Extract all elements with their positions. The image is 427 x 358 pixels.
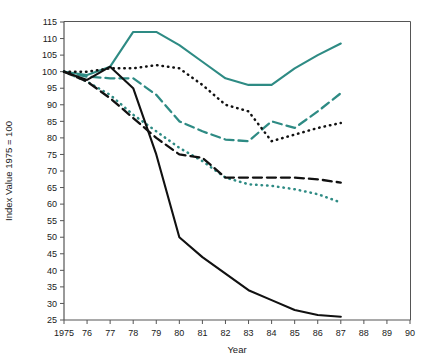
x-tick-label: 78 [128, 328, 138, 338]
x-tick-label: 84 [267, 328, 277, 338]
x-tick-label: 77 [105, 328, 115, 338]
y-tick-label: 110 [43, 34, 57, 44]
y-tick-label: 90 [47, 100, 57, 110]
y-tick-label: 80 [47, 133, 57, 143]
y-tick-label: 50 [47, 232, 57, 242]
y-axis-title: Index Value 1975 = 100 [3, 121, 14, 221]
y-tick-label: 75 [47, 150, 57, 160]
series-teal-dashed [64, 72, 341, 142]
y-tick-label: 85 [47, 117, 57, 127]
y-tick-label: 35 [47, 282, 57, 292]
y-tick-label: 40 [47, 266, 57, 276]
x-axis-title: Year [227, 344, 246, 355]
chart-container: 2530354045505560657075808590951001051101… [0, 0, 427, 358]
series-black-dotted [64, 65, 341, 141]
y-tick-label: 115 [43, 17, 57, 27]
x-tick-label: 87 [336, 328, 346, 338]
series-black-solid [64, 67, 341, 317]
y-tick-label: 70 [47, 166, 57, 176]
x-tick-label: 83 [244, 328, 254, 338]
x-tick-label: 85 [290, 328, 300, 338]
line-chart: 2530354045505560657075808590951001051101… [0, 0, 427, 358]
y-tick-label: 100 [42, 67, 57, 77]
x-tick-label: 86 [313, 328, 323, 338]
y-tick-label: 105 [42, 50, 57, 60]
y-tick-label: 55 [47, 216, 57, 226]
x-tick-label: 80 [174, 328, 184, 338]
x-tick-label: 79 [151, 328, 161, 338]
x-tick-label: 76 [82, 328, 92, 338]
y-tick-label: 60 [47, 199, 57, 209]
y-tick-label: 95 [47, 83, 57, 93]
y-tick-label: 25 [47, 315, 57, 325]
x-tick-label: 81 [197, 328, 207, 338]
x-tick-label: 82 [220, 328, 230, 338]
y-tick-label: 65 [47, 183, 57, 193]
series-teal-dotted [64, 72, 341, 203]
x-tick-label: 90 [405, 328, 415, 338]
series-black-dashed [64, 72, 341, 183]
x-tick-label: 1975 [54, 328, 74, 338]
x-tick-label: 88 [359, 328, 369, 338]
y-tick-label: 45 [47, 249, 57, 259]
y-tick-label: 30 [47, 299, 57, 309]
x-tick-label: 89 [382, 328, 392, 338]
